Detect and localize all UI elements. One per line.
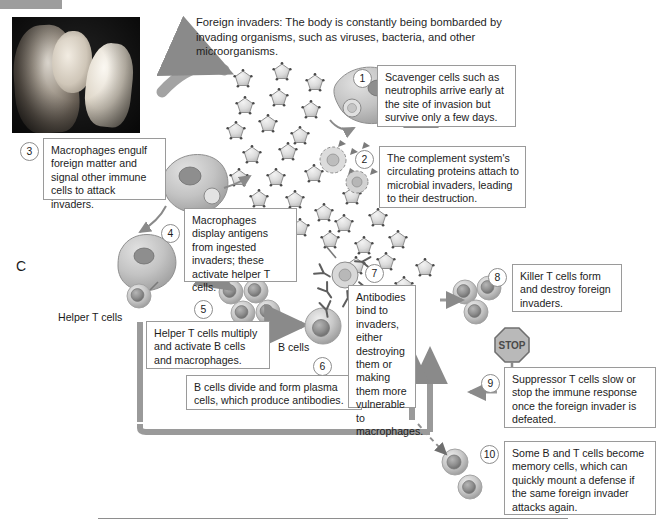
step-number-4: 4 (161, 224, 180, 243)
step-number-5: 5 (194, 300, 213, 319)
step-callout-3: Macrophages engulf foreign matter and si… (43, 138, 166, 200)
step-callout-7: Antibodies bind to invaders, either dest… (348, 285, 416, 408)
step-number-9: 9 (481, 374, 500, 393)
step-callout-9: Suppressor T cells slow or stop the immu… (504, 367, 656, 428)
intro-caption: Foreign invaders: The body is constantly… (196, 15, 526, 59)
step-callout-8: Killer T cells form and destroy foreign … (512, 264, 622, 312)
step-number-6: 6 (313, 357, 332, 376)
b-cells-label: B cells (278, 341, 309, 353)
step-number-2: 2 (355, 150, 374, 169)
top-gray-bar (0, 0, 62, 9)
immune-response-figure: STOP Foreign invaders: The body (0, 0, 663, 530)
svg-text:STOP: STOP (498, 340, 525, 351)
step-callout-2: The complement system's circulating prot… (379, 146, 526, 208)
step-callout-6: B cells divide and form plasma cells, wh… (186, 375, 362, 410)
panel-letter: C (16, 258, 26, 274)
step-callout-4: Macrophages display antigens from ingest… (184, 208, 297, 282)
mother-and-child-photo (12, 17, 140, 133)
step-callout-5: Helper T cells multiply and activate B c… (146, 321, 270, 369)
step-number-10: 10 (480, 445, 499, 464)
step-callout-1: Scavenger cells such as neutrophils arri… (377, 65, 516, 127)
photo-vignette (12, 17, 140, 133)
step-callout-10: Some B and T cells become memory cells, … (504, 441, 656, 515)
step-number-8: 8 (488, 268, 507, 287)
step-number-1: 1 (353, 69, 372, 88)
step-number-7: 7 (365, 264, 384, 283)
helper-t-cells-label: Helper T cells (58, 311, 122, 323)
bottom-rule (98, 518, 568, 519)
step-number-3: 3 (20, 142, 39, 161)
